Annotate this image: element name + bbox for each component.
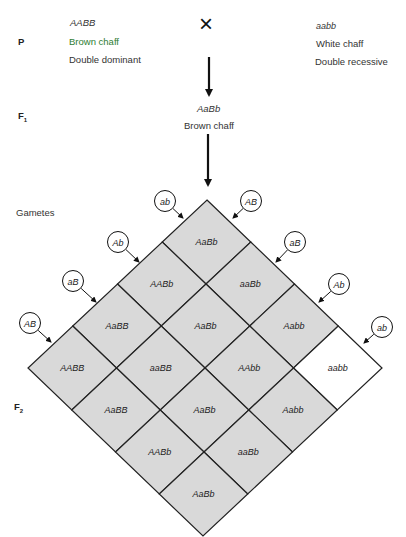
punnett-cell-genotype: AaBb — [194, 237, 217, 247]
gamete-marker: AB — [233, 191, 262, 219]
gamete-marker: Ab — [319, 274, 350, 303]
punnett-cell-genotype: Aabb — [282, 321, 304, 331]
punnett-cell-genotype: AaBB — [104, 321, 128, 331]
gamete-marker: aB — [276, 232, 306, 263]
gamete-label: aB — [289, 238, 300, 248]
punnett-cell-genotype: AaBb — [191, 489, 214, 499]
punnett-cell-genotype: aaBB — [150, 363, 172, 373]
gamete-marker: ab — [364, 317, 393, 344]
gamete-label: Ab — [332, 280, 344, 290]
gamete-label: ab — [160, 197, 170, 207]
gamete-marker: aB — [63, 271, 97, 303]
gamete-label: AB — [23, 319, 36, 329]
gamete-label: Ab — [111, 238, 123, 248]
gamete-marker: Ab — [108, 232, 140, 263]
punnett-cell-genotype: aabb — [328, 363, 348, 373]
punnett-cell-genotype: AaBb — [192, 405, 215, 415]
gamete-label: aB — [67, 277, 78, 287]
punnett-cells: AaBbaaBbAabbaabbAABbAaBbAAbbAabbAaBBaaBB… — [28, 200, 382, 536]
punnett-cell-genotype: AAbb — [237, 363, 260, 373]
gamete-marker: ab — [155, 191, 184, 219]
punnett-cell-genotype: AaBb — [193, 321, 216, 331]
punnett-cell-genotype: AABb — [149, 279, 173, 289]
gamete-label: AB — [244, 197, 257, 207]
punnett-cell-genotype: AABB — [59, 363, 84, 373]
gamete-marker: AB — [20, 313, 52, 343]
punnett-cell-genotype: aaBb — [240, 279, 261, 289]
gamete-label: ab — [377, 323, 387, 333]
punnett-cell-genotype: AaBB — [103, 405, 127, 415]
punnett-diamond-diagram: AaBbaaBbAabbaabbAABbAaBbAAbbAabbAaBBaaBB… — [0, 0, 406, 537]
punnett-cell-genotype: Aabb — [281, 405, 303, 415]
punnett-cell-genotype: AABb — [147, 447, 171, 457]
punnett-cell-genotype: aaBb — [238, 447, 259, 457]
